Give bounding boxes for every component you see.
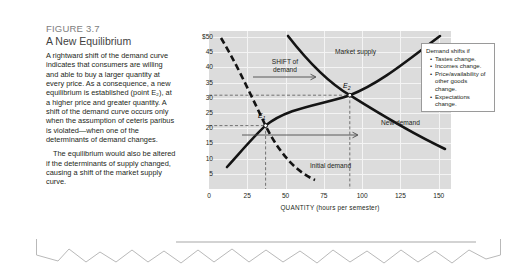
market-supply-label: Market supply [335, 48, 376, 55]
y-tick-label: 30 [189, 94, 213, 101]
figure-paragraph-2: The equilibrium would also be altered if… [46, 149, 176, 186]
legend-list: Tastes change.Incomes change.Price/avail… [426, 55, 490, 108]
y-tick-label: $50 [189, 33, 213, 40]
y-tick-label: 20 [189, 124, 213, 131]
y-tick-label: 5 [189, 170, 213, 177]
x-tick-label: 25 [235, 192, 259, 199]
x-tick-label: 50 [274, 192, 298, 199]
e2-label: E2 [343, 82, 350, 91]
legend-item: Tastes change. [431, 55, 490, 63]
e2-label-sub: 2 [348, 85, 351, 91]
e1-point [264, 124, 268, 128]
x-tick-label: 75 [312, 192, 336, 199]
e1-label-sub: 1 [263, 115, 266, 121]
figure-number: FIGURE 3.7 [46, 23, 176, 35]
figure-panel: FIGURE 3.7 A New Equilibrium A rightward… [18, 9, 483, 257]
y-tick-label: 10 [189, 155, 213, 162]
x-axis-label: QUANTITY (hours per semester) [209, 204, 451, 211]
figure-title: A New Equilibrium [46, 35, 176, 48]
x-tick-label: 0 [197, 192, 221, 199]
figure-paragraph-1: A rightward shift of the demand curve in… [46, 51, 176, 144]
x-tick-label: 100 [350, 192, 374, 199]
torn-paper-edge [36, 239, 501, 269]
legend-item: Incomes change. [431, 62, 490, 70]
y-tick-label: 15 [189, 139, 213, 146]
figure-text-column: FIGURE 3.7 A New Equilibrium A rightward… [46, 23, 176, 187]
shift-annotation-line2: demand [273, 66, 297, 73]
demand-shifters-legend: Demand shifts if Tastes change.Incomes c… [421, 43, 495, 112]
y-tick-label: 25 [189, 109, 213, 116]
legend-title: Demand shifts if [426, 47, 490, 55]
market-supply-curve [227, 36, 440, 167]
x-tick-label: 125 [388, 192, 412, 199]
y-tick-label: 35 [189, 79, 213, 86]
y-tick-label: 45 [189, 48, 213, 55]
x-tick-label: 150 [427, 192, 451, 199]
legend-item: Expectations change. [431, 93, 490, 108]
y-axis-label: PRICE OF TUTORING (per hour) [159, 0, 166, 27]
shift-annotation: SHIFT of demand [255, 58, 315, 74]
e2-point [348, 93, 352, 97]
legend-item: Price/availability of other goods change… [431, 70, 490, 93]
e1-label: E1 [258, 112, 265, 121]
new-demand-label: New demand [381, 119, 420, 126]
y-tick-label: 40 [189, 63, 213, 70]
plot-area: SHIFT of demand E1 E2 Market supply New … [209, 31, 451, 189]
initial-demand-label: Initial demand [310, 162, 351, 169]
shift-annotation-line1: SHIFT of [272, 58, 298, 65]
